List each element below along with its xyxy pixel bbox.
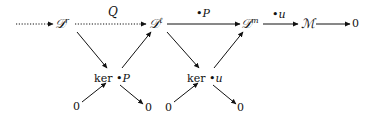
arrow-Dl-to-keru xyxy=(167,32,199,68)
arrow-keru-to-Dm xyxy=(214,32,243,68)
node-zero-bottom-right-1: 0 xyxy=(145,102,152,113)
node-zero-bottom-right-2: 0 xyxy=(237,102,244,113)
edge-label-u: •u xyxy=(272,9,286,20)
node-Dr: 𝒟r xyxy=(55,17,69,30)
arrow-kerP-to-Dl xyxy=(122,32,151,68)
node-zero-bottom-left-1: 0 xyxy=(73,101,80,112)
arrow-kerP-to-zero xyxy=(120,85,143,104)
node-ker-P: ker •P xyxy=(94,73,130,84)
arrow-zero-to-kerP xyxy=(82,83,106,102)
node-Dm: 𝒟m xyxy=(241,17,259,30)
node-zero-right: 0 xyxy=(352,18,359,29)
edge-label-Q: Q xyxy=(108,6,118,18)
arrow-Dr-to-kerP xyxy=(77,32,107,68)
node-M: ℳ xyxy=(301,17,315,30)
arrow-keru-to-zero xyxy=(213,85,236,104)
node-zero-bottom-left-2: 0 xyxy=(165,102,172,113)
arrow-zero-to-keru xyxy=(174,83,198,102)
edge-label-P: •P xyxy=(196,8,210,19)
node-ker-u: ker •u xyxy=(187,73,223,84)
node-Dl: 𝒟ℓ xyxy=(149,17,162,30)
